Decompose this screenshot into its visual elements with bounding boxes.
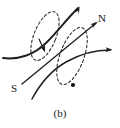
south-pole-label: S <box>11 83 17 94</box>
loop-point-right-dot <box>71 83 75 87</box>
markers-group <box>71 83 75 87</box>
figure-caption: (b) <box>0 107 120 119</box>
figure-container: N S (b) <box>0 0 120 128</box>
north-pole-label: N <box>98 13 106 24</box>
